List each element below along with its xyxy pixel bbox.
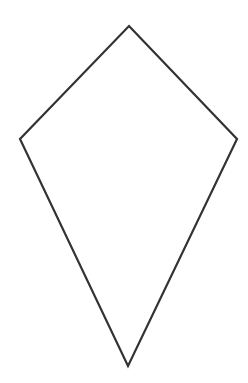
kite-shape xyxy=(20,26,237,366)
diagram-canvas xyxy=(0,0,248,383)
kite-diagram xyxy=(0,0,248,383)
